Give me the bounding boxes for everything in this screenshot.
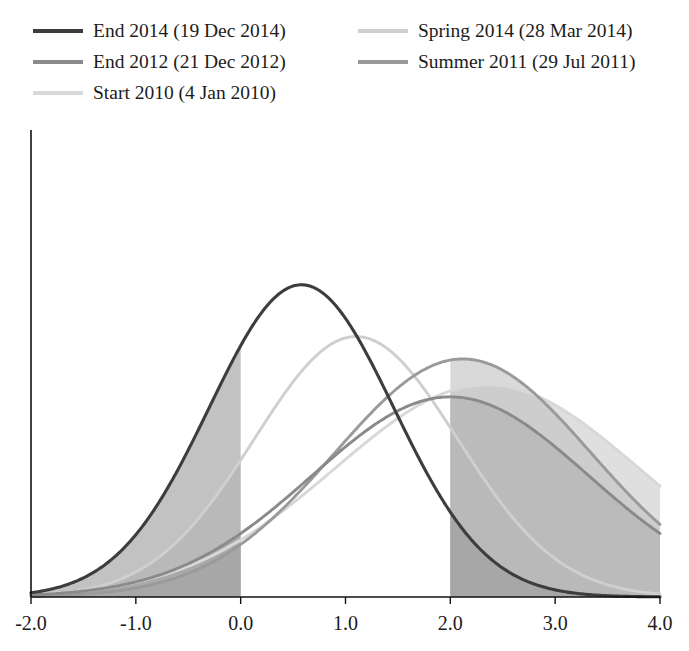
distribution-chart: End 2014 (19 Dec 2014)End 2012 (21 Dec 2… bbox=[0, 0, 689, 651]
chart-legend: End 2014 (19 Dec 2014)End 2012 (21 Dec 2… bbox=[0, 0, 689, 118]
x-tick-label-6: 4.0 bbox=[630, 612, 689, 635]
legend-label-start_2010: Start 2010 (4 Jan 2010) bbox=[93, 83, 276, 103]
legend-item-end_2014[interactable]: End 2014 (19 Dec 2014) bbox=[33, 21, 286, 41]
legend-label-summer_2011: Summer 2011 (29 Jul 2011) bbox=[418, 52, 635, 72]
legend-label-end_2012: End 2012 (21 Dec 2012) bbox=[93, 52, 286, 72]
legend-label-end_2014: End 2014 (19 Dec 2014) bbox=[93, 21, 286, 41]
legend-label-spring_2014: Spring 2014 (28 Mar 2014) bbox=[418, 21, 632, 41]
legend-item-summer_2011[interactable]: Summer 2011 (29 Jul 2011) bbox=[358, 52, 635, 72]
legend-swatch-end_2012 bbox=[33, 60, 83, 64]
x-tick-label-5: 3.0 bbox=[525, 612, 585, 635]
legend-item-spring_2014[interactable]: Spring 2014 (28 Mar 2014) bbox=[358, 21, 632, 41]
legend-swatch-end_2014 bbox=[33, 29, 83, 33]
x-tick-label-0: -2.0 bbox=[1, 612, 61, 635]
legend-swatch-summer_2011 bbox=[358, 60, 408, 64]
x-tick-label-2: 0.0 bbox=[211, 612, 271, 635]
x-tick-label-3: 1.0 bbox=[315, 612, 375, 635]
legend-swatch-spring_2014 bbox=[358, 29, 408, 33]
plot-canvas bbox=[0, 118, 689, 651]
legend-swatch-start_2010 bbox=[33, 91, 83, 95]
legend-item-start_2010[interactable]: Start 2010 (4 Jan 2010) bbox=[33, 83, 276, 103]
plot-area bbox=[0, 118, 689, 651]
legend-item-end_2012[interactable]: End 2012 (21 Dec 2012) bbox=[33, 52, 286, 72]
x-tick-label-1: -1.0 bbox=[106, 612, 166, 635]
x-tick-label-4: 2.0 bbox=[420, 612, 480, 635]
